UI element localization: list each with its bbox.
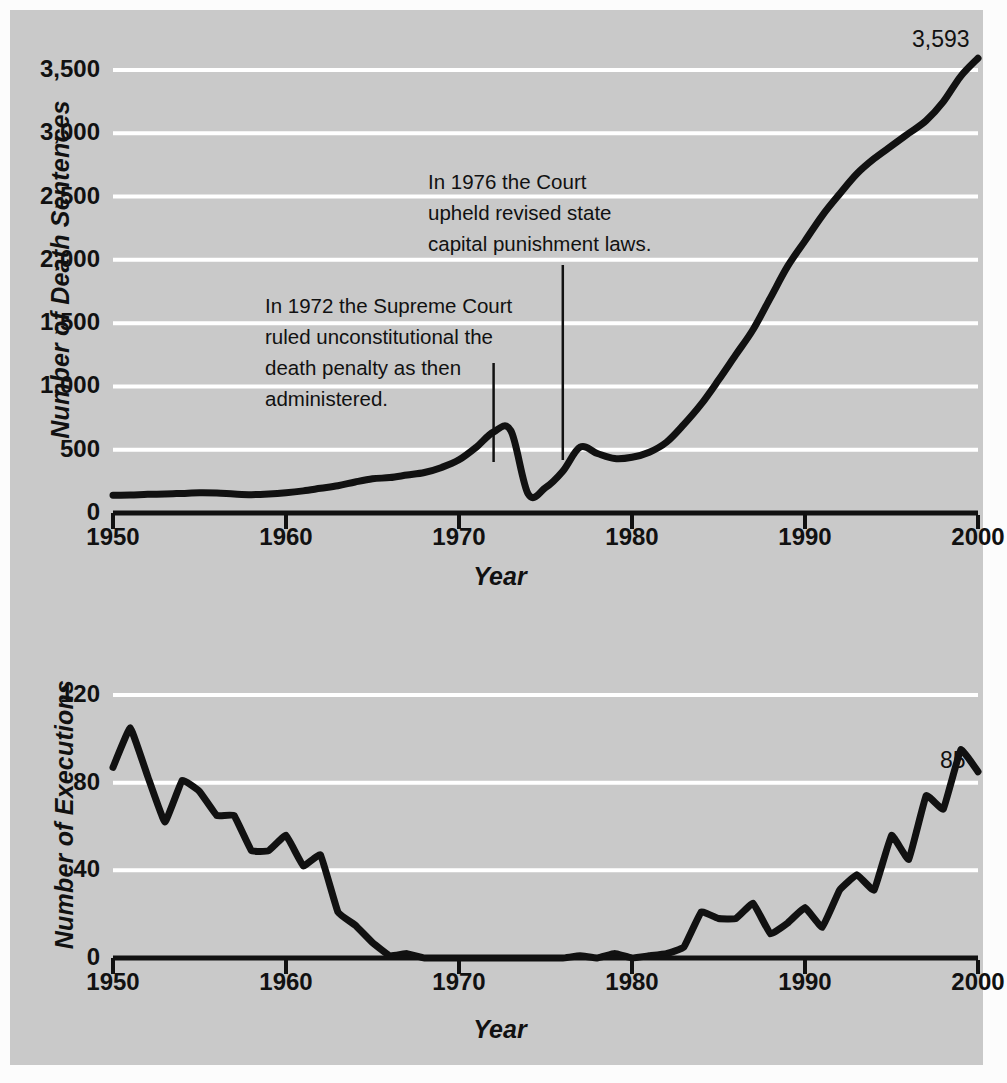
y-tick-label: 40: [0, 855, 100, 883]
bottom-x-axis-title: Year: [290, 1015, 710, 1044]
x-tick-label: 2000: [928, 523, 1007, 551]
top-x-axis-title: Year: [290, 562, 710, 591]
y-tick-label: 1,500: [0, 308, 100, 336]
y-tick-label: 80: [0, 768, 100, 796]
x-tick-label: 2000: [928, 968, 1007, 996]
death-sentences-chart: Number of Death Sentences 05001,0001,500…: [0, 0, 1007, 610]
x-tick-label: 1960: [236, 968, 336, 996]
x-tick-label: 1950: [63, 523, 163, 551]
x-tick-label: 1990: [755, 523, 855, 551]
bottom-end-label: 85: [940, 747, 966, 774]
x-tick-label: 1970: [409, 523, 509, 551]
death-sentences-line: [113, 58, 978, 497]
x-tick-label: 1950: [63, 968, 163, 996]
y-tick-label: 3,500: [0, 55, 100, 83]
annotation-1976: In 1976 the Court upheld revised state c…: [428, 166, 651, 259]
y-tick-label: 0: [0, 943, 100, 971]
y-tick-label: 500: [0, 435, 100, 463]
figure-page: Number of Death Sentences 05001,0001,500…: [0, 0, 1007, 1083]
y-tick-label: 0: [0, 498, 100, 526]
x-tick-label: 1970: [409, 968, 509, 996]
executions-line: [113, 728, 978, 958]
top-gridlines: [113, 70, 978, 450]
bottom-gridlines: [113, 695, 978, 870]
x-tick-label: 1990: [755, 968, 855, 996]
x-tick-label: 1980: [582, 968, 682, 996]
y-tick-label: 3,000: [0, 118, 100, 146]
x-tick-label: 1960: [236, 523, 336, 551]
x-tick-label: 1980: [582, 523, 682, 551]
top-end-label: 3,593: [912, 26, 970, 53]
y-tick-label: 2,000: [0, 245, 100, 273]
y-tick-label: 120: [0, 680, 100, 708]
annotation-1972: In 1972 the Supreme Court ruled unconsti…: [265, 290, 512, 414]
bottom-plot-area: [0, 645, 1007, 1065]
executions-chart: Number of Executions 04080120 1950196019…: [0, 645, 1007, 1065]
y-tick-label: 2,500: [0, 182, 100, 210]
y-tick-label: 1,000: [0, 371, 100, 399]
